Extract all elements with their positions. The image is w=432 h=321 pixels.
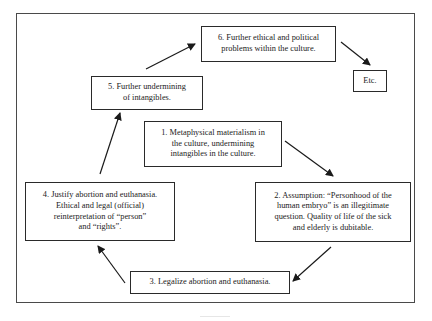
node-text-line: human embryo” is an illegitimate (274, 201, 391, 212)
node-text-line: 6. Further ethical and political (218, 33, 319, 44)
caption-remnant (200, 316, 230, 317)
node-text-line: of intangibles. (108, 93, 186, 104)
node-text-line: and “rights”. (43, 222, 157, 233)
node-text-line: 2. Assumption: “Personhood of the (274, 191, 391, 202)
node-text-line: 1. Metaphysical materialism in (161, 128, 265, 139)
node-text-line: 3. Legalize abortion and euthanasia. (150, 277, 271, 288)
node-text-line: reinterpretation of “person” (43, 212, 157, 223)
node-text-line: intangibles in the culture. (161, 149, 265, 160)
node-2-assumption: 2. Assumption: “Personhood of the human … (255, 182, 411, 242)
node-text-line: 4. Justify abortion and euthanasia. (43, 190, 157, 201)
node-5-further-undermining: 5. Further undermining of intangibles. (91, 76, 203, 110)
node-text-line: problems within the culture. (218, 44, 319, 55)
node-4-justify: 4. Justify abortion and euthanasia. Ethi… (25, 182, 175, 241)
node-text-line: and elderly is dubitable. (274, 223, 391, 234)
node-text-line: the culture, undermining (161, 139, 265, 150)
node-3-legalize: 3. Legalize abortion and euthanasia. (130, 271, 290, 294)
node-1-metaphysical-materialism: 1. Metaphysical materialism in the cultu… (144, 121, 282, 167)
node-text-line: Ethical and legal (official) (43, 201, 157, 212)
node-text-line: question. Quality of life of the sick (274, 212, 391, 223)
node-6-further-problems: 6. Further ethical and political problem… (201, 26, 336, 62)
node-text-line: 5. Further undermining (108, 82, 186, 93)
node-etc: Etc. (353, 70, 387, 92)
node-text-line: Etc. (363, 76, 376, 87)
